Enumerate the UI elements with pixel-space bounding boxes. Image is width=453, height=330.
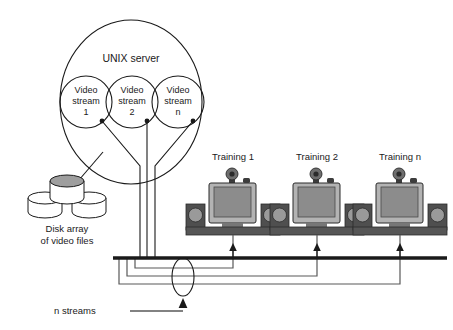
workstation-training-n[interactable]: Training n [353, 151, 447, 235]
diagram-canvas: UNIX server Video stream 1 Video stream … [0, 0, 453, 330]
video-stream-1-line2: stream [72, 96, 100, 106]
workstation-training-2[interactable]: Training 2 [270, 151, 364, 235]
workstation-n-monitor [376, 178, 423, 227]
stream-bundle-ellipse [172, 258, 194, 296]
workstation-1-label: Training 1 [212, 151, 254, 162]
bus-uplink-arrows [229, 243, 404, 258]
uplink-arrow-2 [313, 243, 321, 251]
workstation-1-camera-icon [226, 168, 238, 185]
video-stream-n-line3: n [175, 107, 180, 117]
workstation-training-1[interactable]: Training 1 [186, 151, 280, 235]
video-stream-1-line3: 1 [83, 107, 88, 117]
disk-array-label-line1: Disk array [46, 223, 89, 234]
video-stream-1-group: Video stream 1 [60, 76, 112, 128]
disk-center [50, 175, 84, 204]
workstation-2-base [270, 227, 364, 235]
return-path-1 [135, 235, 233, 268]
disk-array-group: Disk array of video files [28, 152, 106, 246]
workstation-1-monitor [209, 178, 256, 227]
video-stream-2-group: Video stream 2 [106, 76, 158, 128]
n-streams-callout: n streams [54, 298, 187, 316]
disk-array-label-line2: of video files [41, 235, 94, 246]
workstation-2-monitor [293, 178, 340, 227]
stream-feed-line-n [155, 121, 193, 258]
video-stream-1-line1: Video [75, 85, 98, 95]
stream-feed-lines [102, 121, 193, 258]
workstation-1-base [186, 227, 280, 235]
workstation-1-speaker-left [186, 204, 205, 230]
workstation-n-label: Training n [379, 151, 421, 162]
workstation-2-speaker-left [270, 204, 289, 230]
uplink-arrow-n [396, 243, 404, 251]
workstation-n-base [353, 227, 447, 235]
video-stream-2-line3: 2 [129, 107, 134, 117]
video-stream-n-line2: stream [164, 96, 192, 106]
workstation-n-speaker-left [353, 204, 372, 230]
unix-server-label: UNIX server [102, 52, 160, 64]
workstation-2-label: Training 2 [296, 151, 338, 162]
video-stream-n-group: Video stream n [152, 76, 204, 128]
workstation-2-camera-icon [310, 168, 322, 185]
n-streams-label: n streams [54, 305, 96, 316]
stream-feed-line-1 [102, 121, 140, 258]
video-stream-2-line2: stream [118, 96, 146, 106]
video-stream-n-line1: Video [167, 85, 190, 95]
uplink-arrow-1 [229, 243, 237, 251]
workstation-n-speaker-right [428, 204, 447, 230]
n-streams-arrowhead [179, 298, 188, 308]
network-diagram: UNIX server Video stream 1 Video stream … [0, 0, 453, 330]
video-stream-2-line1: Video [121, 85, 144, 95]
workstation-n-camera-icon [393, 168, 405, 185]
